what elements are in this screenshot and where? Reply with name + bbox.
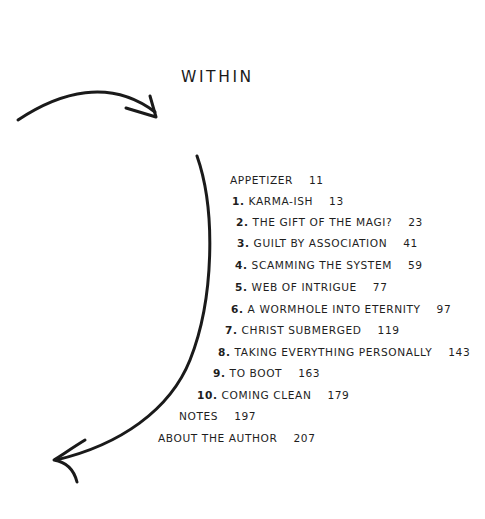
chapter-title: KARMA-ISH xyxy=(249,195,314,207)
chapter-title: CHRIST SUBMERGED xyxy=(242,324,362,336)
page-number: 11 xyxy=(309,174,324,186)
chapter-title: SCAMMING THE SYSTEM xyxy=(252,259,392,271)
chapter-title: ABOUT THE AUTHOR xyxy=(158,432,278,444)
chapter-title: THE GIFT OF THE MAGI? xyxy=(253,216,393,228)
chapter-number: 3. xyxy=(237,237,250,249)
chapter-number: 2. xyxy=(236,216,249,228)
toc-entry-chapter-9[interactable]: 9. TO BOOT 163 xyxy=(213,366,320,380)
table-of-contents: APPETIZER 11 1. KARMA-ISH 13 2. THE GIFT… xyxy=(0,0,485,519)
toc-entry-notes[interactable]: NOTES 197 xyxy=(179,409,256,423)
chapter-title: TO BOOT xyxy=(230,367,283,379)
toc-entry-chapter-4[interactable]: 4. SCAMMING THE SYSTEM 59 xyxy=(235,258,423,272)
page-number: 77 xyxy=(373,281,388,293)
chapter-number: 7. xyxy=(225,324,238,336)
chapter-number: 4. xyxy=(235,259,248,271)
toc-entry-about-the-author[interactable]: ABOUT THE AUTHOR 207 xyxy=(158,431,316,445)
chapter-title: GUILT BY ASSOCIATION xyxy=(254,237,388,249)
chapter-title: A WORMHOLE INTO ETERNITY xyxy=(248,303,421,315)
chapter-number: 8. xyxy=(218,346,231,358)
chapter-number: 6. xyxy=(231,303,244,315)
page-number: 23 xyxy=(408,216,423,228)
toc-entry-chapter-10[interactable]: 10. COMING CLEAN 179 xyxy=(197,388,349,402)
page-number: 119 xyxy=(378,324,400,336)
chapter-number: 10. xyxy=(197,389,218,401)
page-number: 179 xyxy=(327,389,349,401)
toc-entry-chapter-6[interactable]: 6. A WORMHOLE INTO ETERNITY 97 xyxy=(231,302,451,316)
page-number: 41 xyxy=(403,237,418,249)
toc-entry-chapter-7[interactable]: 7. CHRIST SUBMERGED 119 xyxy=(225,323,400,337)
chapter-number: 5. xyxy=(235,281,248,293)
chapter-title: APPETIZER xyxy=(230,174,293,186)
chapter-number: 9. xyxy=(213,367,226,379)
page-number: 163 xyxy=(298,367,320,379)
chapter-number: 1. xyxy=(232,195,245,207)
contents-page: WITHIN APPETIZER 11 1. KARMA-ISH 13 2. T… xyxy=(0,0,485,519)
page-number: 207 xyxy=(293,432,315,444)
toc-entry-chapter-2[interactable]: 2. THE GIFT OF THE MAGI? 23 xyxy=(236,215,423,229)
page-number: 143 xyxy=(448,346,470,358)
page-number: 59 xyxy=(408,259,423,271)
page-number: 97 xyxy=(437,303,452,315)
page-number: 197 xyxy=(234,410,256,422)
toc-entry-chapter-5[interactable]: 5. WEB OF INTRIGUE 77 xyxy=(235,280,388,294)
toc-entry-appetizer[interactable]: APPETIZER 11 xyxy=(230,173,324,187)
chapter-title: NOTES xyxy=(179,410,218,422)
chapter-title: TAKING EVERYTHING PERSONALLY xyxy=(235,346,433,358)
page-number: 13 xyxy=(329,195,344,207)
toc-entry-chapter-3[interactable]: 3. GUILT BY ASSOCIATION 41 xyxy=(237,236,418,250)
toc-entry-chapter-8[interactable]: 8. TAKING EVERYTHING PERSONALLY 143 xyxy=(218,345,470,359)
chapter-title: WEB OF INTRIGUE xyxy=(252,281,357,293)
chapter-title: COMING CLEAN xyxy=(222,389,312,401)
toc-entry-chapter-1[interactable]: 1. KARMA-ISH 13 xyxy=(232,194,344,208)
